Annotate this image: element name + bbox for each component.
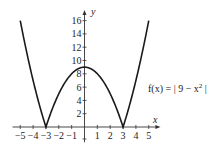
x-tick-label: 4 xyxy=(133,130,138,141)
axis-ticks: −5−4−3−2−112345246810121416 xyxy=(15,15,151,141)
x-axis-arrow-icon xyxy=(155,125,160,129)
x-tick-label: 5 xyxy=(146,130,151,141)
y-tick-label: 12 xyxy=(72,42,82,53)
y-axis-arrow-icon xyxy=(83,10,87,15)
function-plot: −5−4−3−2−112345246810121416 x y f(x) = |… xyxy=(0,0,213,154)
y-tick-label: 14 xyxy=(72,28,82,39)
x-tick-label: −1 xyxy=(66,130,77,141)
x-tick-label: 2 xyxy=(108,130,113,141)
x-tick-label: 1 xyxy=(95,130,100,141)
y-tick-label: 10 xyxy=(72,55,82,66)
x-tick-label: −4 xyxy=(28,130,39,141)
x-tick-label: −5 xyxy=(15,130,26,141)
y-axis-label: y xyxy=(90,6,96,17)
x-axis-label: x xyxy=(152,114,158,125)
y-tick-label: 4 xyxy=(77,95,82,106)
y-tick-label: 6 xyxy=(77,82,82,93)
y-tick-label: 16 xyxy=(72,15,82,26)
x-tick-label: −3 xyxy=(41,130,52,141)
x-tick-label: −2 xyxy=(53,130,64,141)
axes xyxy=(13,10,161,142)
x-tick-label: 3 xyxy=(121,130,126,141)
y-tick-label: 2 xyxy=(77,108,82,119)
function-label: f(x) = | 9 − x2 | xyxy=(148,82,207,95)
